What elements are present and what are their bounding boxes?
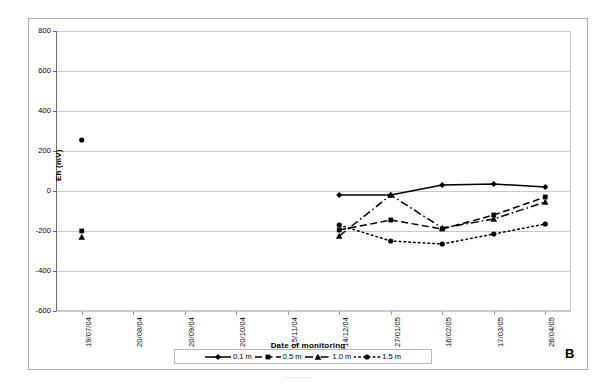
series-1-5-m: [79, 137, 548, 246]
y-tick-label: -200: [36, 227, 51, 235]
circle-marker: [79, 137, 84, 142]
x-tick-mark: [288, 311, 289, 315]
circle-marker: [440, 241, 445, 246]
triangle-marker: [78, 234, 85, 240]
series-0-1-m: [336, 181, 548, 198]
circle-marker: [365, 354, 370, 359]
y-tick-label: 400: [38, 107, 51, 115]
legend-entry: 1.5 m: [353, 352, 402, 362]
circle-marker: [337, 222, 342, 227]
y-tick-label: 0: [47, 187, 51, 195]
x-tick-mark: [442, 311, 443, 315]
square-marker: [388, 218, 393, 223]
legend-swatch: [354, 352, 380, 362]
y-tick-label: 600: [38, 67, 51, 75]
y-tick-label: 800: [38, 27, 51, 35]
y-tick-label: 200: [38, 147, 51, 155]
square-marker: [265, 354, 270, 359]
legend-swatch: [205, 352, 231, 362]
x-tick-mark: [82, 311, 83, 315]
triangle-marker: [314, 353, 321, 359]
x-tick-mark: [391, 311, 392, 315]
y-tick-label: -400: [36, 267, 51, 275]
y-tick-label: -600: [36, 307, 51, 315]
circle-marker: [491, 231, 496, 236]
circle-marker: [388, 238, 393, 243]
series-0-5-m: [79, 195, 547, 234]
chart-legend: 0.1 m0.5 m1.0 m1.5 m: [174, 349, 432, 364]
circle-marker: [543, 221, 548, 226]
square-marker: [543, 195, 548, 200]
x-tick-mark: [185, 311, 186, 315]
series-layer: [56, 31, 571, 311]
legend-label: 1.0 m: [333, 353, 352, 361]
legend-entry: 0.5 m: [254, 352, 303, 362]
diamond-marker: [336, 192, 342, 198]
triangle-marker: [542, 199, 549, 205]
x-tick-mark: [545, 311, 546, 315]
legend-label: 0.1 m: [233, 353, 252, 361]
diamond-marker: [215, 353, 221, 359]
y-tick-mark: [53, 311, 56, 312]
diamond-marker: [542, 184, 548, 190]
x-tick-mark: [236, 311, 237, 315]
panel-label: B: [565, 346, 575, 361]
square-marker: [337, 228, 342, 233]
legend-label: 1.5 m: [382, 353, 401, 361]
legend-entry: 0.1 m: [204, 352, 253, 362]
series-1-0-m: [78, 192, 548, 240]
x-tick-mark: [133, 311, 134, 315]
y-axis-title: Eh (mV): [54, 149, 63, 181]
plot-area: 8006004002000-200-400-600 19/07/0420/08/…: [56, 31, 571, 311]
x-tick-mark: [494, 311, 495, 315]
legend-label: 0.5 m: [283, 353, 302, 361]
caption-fragment: ~~~~~ ~~: [0, 374, 597, 380]
diamond-marker: [439, 182, 445, 188]
legend-entry: 1.0 m: [304, 352, 353, 362]
legend-swatch: [305, 352, 331, 362]
legend-swatch: [255, 352, 281, 362]
chart-frame: 8006004002000-200-400-600 19/07/0420/08/…: [28, 18, 588, 370]
square-marker: [79, 229, 84, 234]
figure-panel-b: 8006004002000-200-400-600 19/07/0420/08/…: [0, 0, 597, 388]
x-tick-mark: [339, 311, 340, 315]
diamond-marker: [491, 181, 497, 187]
